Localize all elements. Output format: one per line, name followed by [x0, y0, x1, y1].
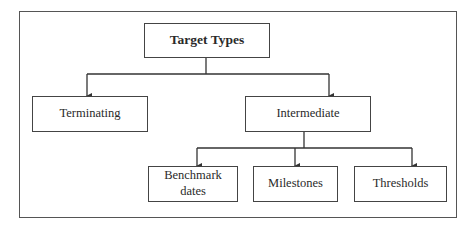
node-label: Intermediate — [276, 106, 339, 122]
node-label: Target Types — [170, 32, 244, 49]
node-label-line1: Benchmark — [164, 168, 222, 184]
node-thresholds: Thresholds — [354, 166, 447, 202]
node-label: Milestones — [268, 176, 323, 192]
node-target-types: Target Types — [144, 23, 270, 58]
node-intermediate: Intermediate — [245, 96, 371, 132]
node-label: Thresholds — [373, 176, 429, 192]
node-label: Terminating — [60, 106, 121, 122]
node-terminating: Terminating — [32, 96, 148, 132]
node-milestones: Milestones — [253, 166, 338, 202]
node-benchmark-dates: Benchmark dates — [148, 166, 238, 202]
node-label-line2: dates — [180, 184, 206, 200]
